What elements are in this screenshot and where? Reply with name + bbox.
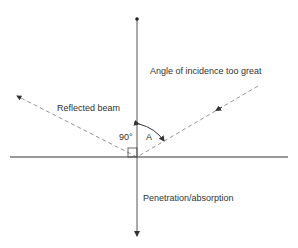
incidence-label: Angle of incidence too great (150, 67, 262, 76)
penetration-label: Penetration/absorption (143, 194, 234, 203)
right-angle-marker (128, 148, 137, 157)
diagram-canvas (0, 0, 298, 248)
normal-top-dot (135, 17, 139, 21)
incident-arrow (216, 107, 222, 111)
angle-label: A (146, 133, 152, 142)
incident-beam (137, 86, 258, 157)
reflected-label: Reflected beam (57, 104, 120, 113)
right-angle-label: 90° (119, 133, 133, 142)
